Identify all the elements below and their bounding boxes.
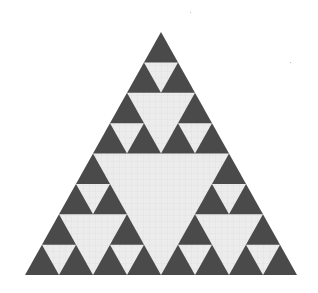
sierpinski-triangle — [0, 0, 318, 293]
scan-speck — [190, 12, 191, 13]
triangle-holes — [42, 62, 280, 275]
scan-speck — [290, 62, 291, 63]
